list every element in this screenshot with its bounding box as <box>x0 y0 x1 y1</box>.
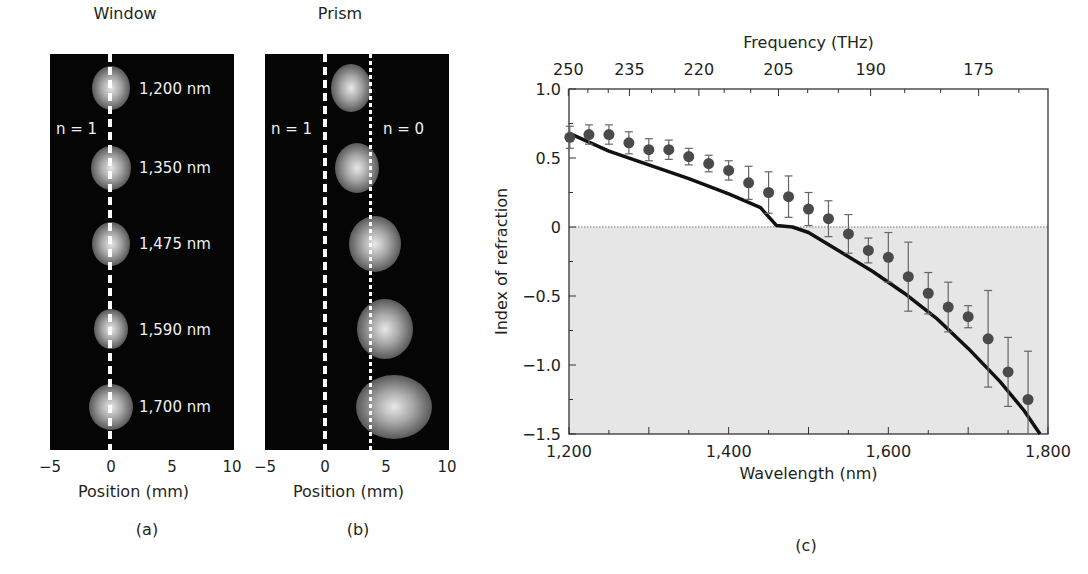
marker-circle <box>583 129 594 140</box>
marker-circle <box>643 144 654 155</box>
top-tick-label: 190 <box>855 60 886 79</box>
marker-circle <box>843 228 854 239</box>
data-point <box>803 193 814 226</box>
data-point <box>643 139 654 161</box>
marker-circle <box>903 271 914 282</box>
marker-circle <box>723 165 734 176</box>
marker-circle <box>823 213 834 224</box>
x-tick-label: 1,400 <box>706 442 752 461</box>
x-tick-label: 1,200 <box>546 442 592 461</box>
refraction-index-chart: 1,2001,4001,6001,800Wavelength (nm)1.00.… <box>0 0 1088 574</box>
marker-circle <box>963 311 974 322</box>
y-tick-label: 0.5 <box>536 149 561 168</box>
data-point <box>623 132 634 154</box>
top-tick-label: 235 <box>614 60 645 79</box>
marker-circle <box>763 187 774 198</box>
data-point <box>783 176 794 217</box>
marker-circle <box>564 132 575 143</box>
marker-circle <box>923 288 934 299</box>
y-tick-label: −1.0 <box>522 356 561 375</box>
y-tick-label: 1.0 <box>536 80 561 99</box>
marker-circle <box>603 129 614 140</box>
data-point <box>663 140 674 159</box>
data-point <box>723 161 734 180</box>
marker-circle <box>743 177 754 188</box>
data-point <box>564 126 575 148</box>
marker-circle <box>623 137 634 148</box>
panel-c-caption: (c) <box>795 536 816 555</box>
marker-circle <box>943 302 954 313</box>
top-axis-title: Frequency (THz) <box>743 33 873 52</box>
marker-circle <box>683 151 694 162</box>
marker-circle <box>703 158 714 169</box>
top-tick-label: 205 <box>763 60 794 79</box>
data-point <box>763 172 774 213</box>
x-tick-label: 1,800 <box>1025 442 1071 461</box>
y-axis-title: Index of refraction <box>492 188 511 335</box>
y-tick-label: −1.5 <box>522 425 561 444</box>
marker-circle <box>783 191 794 202</box>
marker-circle <box>1003 366 1014 377</box>
marker-circle <box>1023 394 1034 405</box>
top-tick-label: 175 <box>963 60 994 79</box>
marker-circle <box>663 144 674 155</box>
marker-circle <box>983 333 994 344</box>
x-axis-title: Wavelength (nm) <box>739 464 877 483</box>
marker-circle <box>863 245 874 256</box>
top-tick-label: 220 <box>684 60 715 79</box>
data-point <box>743 166 754 199</box>
marker-circle <box>883 252 894 263</box>
data-point <box>603 125 614 144</box>
top-tick-label: 250 <box>553 60 584 79</box>
data-point <box>703 155 714 172</box>
y-tick-label: 0 <box>551 218 561 237</box>
y-tick-label: −0.5 <box>522 287 561 306</box>
marker-circle <box>803 204 814 215</box>
negative-index-region <box>569 227 1048 434</box>
x-tick-label: 1,600 <box>865 442 911 461</box>
data-point <box>683 148 694 165</box>
